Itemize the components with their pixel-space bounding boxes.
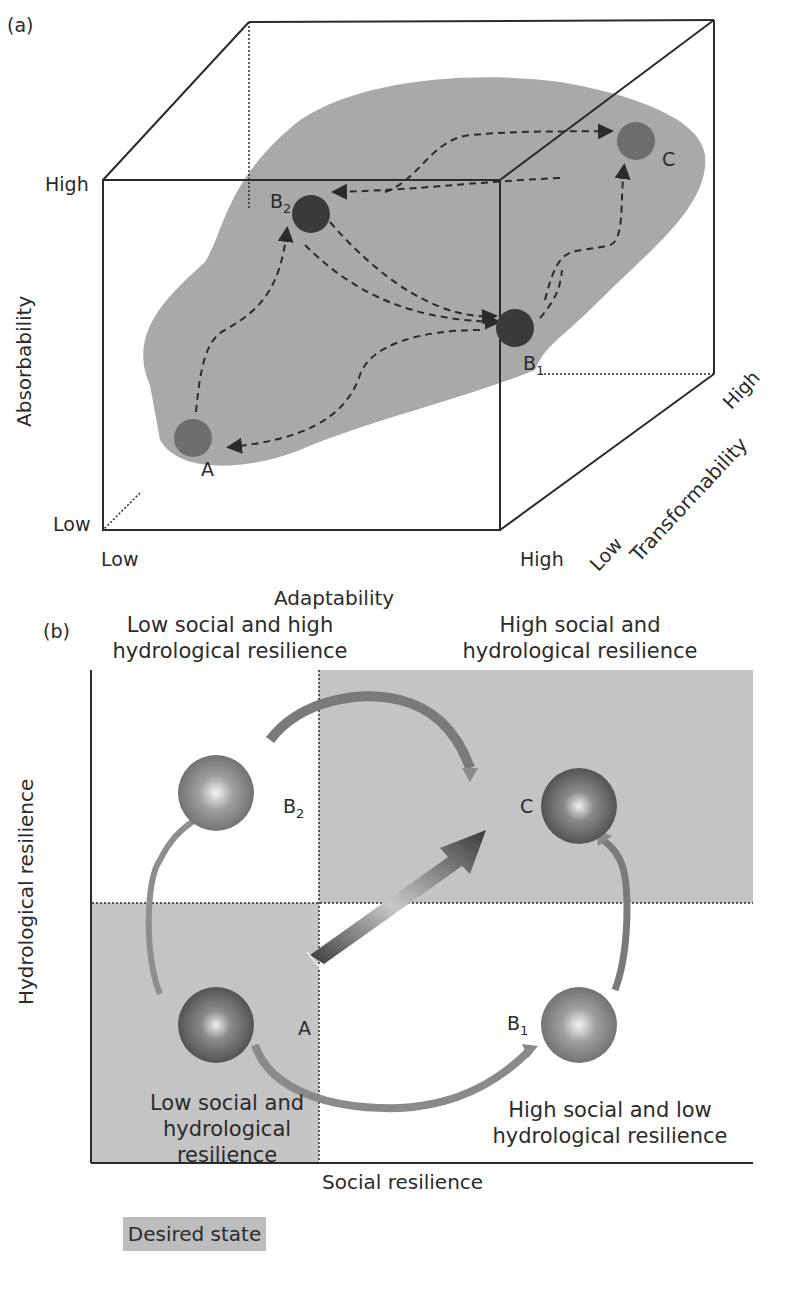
state-label-b1: B1 — [523, 352, 544, 378]
quadrant-label-bottom-right: High social and low hydrological resilie… — [480, 1097, 740, 1149]
quadrant-top-right-shade — [319, 670, 753, 903]
y-low-label: Low — [53, 513, 90, 535]
quadrant-label-top-right: High social and hydrological resilience — [440, 612, 720, 664]
sphere-label-c: C — [520, 795, 533, 817]
x-axis-title: Adaptability — [274, 586, 394, 610]
hidden-edge — [103, 493, 140, 530]
panel-b-label: (b) — [43, 620, 70, 642]
sphere-c — [541, 768, 617, 844]
x-high-label: High — [520, 548, 564, 570]
sphere-label-a: A — [298, 1017, 311, 1039]
y-high-label: High — [45, 173, 89, 195]
x-low-label: Low — [101, 548, 138, 570]
state-label-b2: B2 — [270, 190, 291, 216]
management-target-arrow — [307, 830, 486, 968]
y-axis-title-hydrological: Hydrological resilience — [14, 779, 38, 1005]
sphere-a — [178, 987, 254, 1063]
sphere-label-b1: B1 — [507, 1012, 528, 1038]
state-label-a: A — [201, 458, 214, 480]
cube-diagram — [0, 0, 804, 640]
state-dot-a — [174, 419, 212, 457]
state-dot-b2 — [292, 195, 330, 233]
y-axis-title: Absorbability — [12, 296, 36, 427]
quadrant-label-bottom-left: Low social and hydrological resilience — [112, 1090, 342, 1168]
x-axis-title-social: Social resilience — [322, 1170, 483, 1194]
state-dot-c — [617, 122, 655, 160]
state-label-c: C — [662, 148, 675, 170]
sphere-b2 — [178, 755, 254, 831]
sphere-b1 — [541, 987, 617, 1063]
sphere-label-b2: B2 — [283, 795, 304, 821]
state-dot-b1 — [496, 309, 534, 347]
quadrant-label-top-left: Low social and high hydrological resilie… — [110, 612, 350, 664]
legend-desired-state: Desired state — [123, 1217, 266, 1251]
